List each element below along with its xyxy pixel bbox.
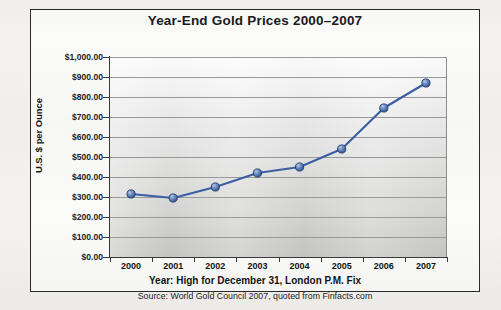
data-point bbox=[295, 163, 303, 171]
series-markers bbox=[127, 79, 430, 202]
series-polyline bbox=[131, 83, 426, 198]
data-point bbox=[169, 194, 177, 202]
data-point bbox=[127, 190, 135, 198]
source-note: Source: World Gold Council 2007, quoted … bbox=[30, 291, 480, 301]
data-point bbox=[253, 169, 261, 177]
data-point bbox=[380, 104, 388, 112]
chart-title: Year-End Gold Prices 2000–2007 bbox=[30, 13, 480, 28]
y-tick-label: $200.00 bbox=[25, 212, 103, 222]
x-tick-label: 2007 bbox=[401, 261, 451, 271]
data-series-line bbox=[110, 57, 447, 257]
data-point bbox=[211, 183, 219, 191]
y-tick-label: $1,000.00 bbox=[25, 52, 103, 62]
y-axis-line bbox=[109, 56, 110, 258]
y-tick-label: $100.00 bbox=[25, 232, 103, 242]
data-point bbox=[422, 79, 430, 87]
x-axis-title: Year: High for December 31, London P.M. … bbox=[30, 275, 480, 286]
y-axis-title: U.S. $ per Ounce bbox=[33, 66, 44, 206]
data-point bbox=[338, 145, 346, 153]
chart-page: Year-End Gold Prices 2000–2007 $1,000.00… bbox=[0, 0, 501, 310]
y-tick-label: $0.00 bbox=[25, 252, 103, 262]
